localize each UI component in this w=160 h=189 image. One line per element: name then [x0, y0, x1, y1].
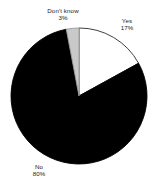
slice-label-no-name: No: [22, 163, 56, 170]
slice-label-no-value: 80%: [22, 170, 56, 177]
slice-label-dontknow: Don't know 3%: [36, 7, 90, 22]
slice-label-dontknow-name: Don't know: [36, 7, 90, 14]
slice-label-yes-name: Yes: [110, 17, 144, 24]
slice-label-no: No 80%: [22, 163, 56, 178]
pie-chart: Don't know 3% Yes 17% No 80%: [0, 0, 160, 189]
slice-label-dontknow-value: 3%: [36, 14, 90, 21]
slice-label-yes: Yes 17%: [110, 17, 144, 32]
slice-label-yes-value: 17%: [110, 24, 144, 31]
